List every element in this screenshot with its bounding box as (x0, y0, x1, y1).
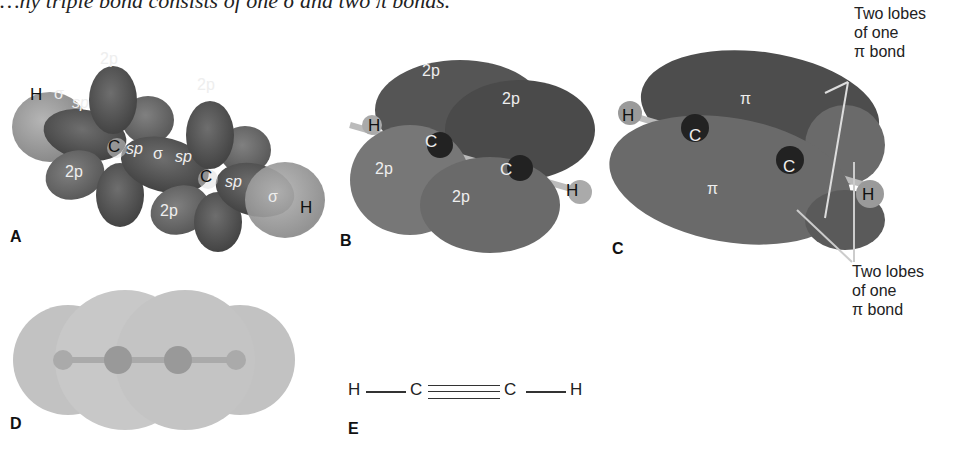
panel-c-pi-bonds: π π H C C H C Two lobes of one π bond Tw… (600, 0, 973, 464)
atom-h2: H (570, 380, 582, 400)
2p-label: 2p (100, 50, 118, 68)
panel-label-b: B (340, 232, 352, 250)
single-bond-left (366, 391, 406, 393)
2p-label: 2p (375, 160, 393, 178)
caption-fragment: …ny triple bond consists of one σ and tw… (0, 0, 450, 14)
callout-line: π bond (854, 42, 926, 61)
atom-h-left: H (622, 106, 634, 126)
sp-label: sp (175, 148, 192, 166)
sp-label: sp (225, 173, 242, 191)
callout-line: π bond (852, 300, 924, 319)
panel-b-p-orbitals: 2p 2p H C C H 2p 2p B (330, 40, 610, 260)
panel-a-sp-orbitals: H σ sp 2p C sp σ sp 2p 2p C sp 2p σ H A (0, 30, 330, 260)
2p-label: 2p (422, 62, 440, 80)
p-orbital-overlap-diagram (330, 40, 610, 260)
pi-label-bottom: π (707, 180, 718, 198)
sp-label: sp (126, 140, 143, 158)
sp-orbital-diagram (0, 30, 330, 260)
2p-label: 2p (160, 202, 178, 220)
atom-c-right: C (200, 167, 212, 187)
2p-label: 2p (452, 188, 470, 206)
panel-e-structural-formula: H C C H E (330, 370, 610, 464)
sp-label: sp (72, 94, 89, 112)
callout-top-pi-lobes: Two lobes of one π bond (854, 4, 926, 61)
panel-label-c: C (612, 240, 624, 258)
pi-label-top: π (740, 90, 751, 108)
atom-h-left: H (30, 85, 42, 105)
single-bond-right (526, 391, 566, 393)
sigma-label-left: σ (54, 85, 64, 103)
atom-c-right: C (783, 157, 795, 177)
atom-c1: C (410, 380, 422, 400)
atom-h-right: H (566, 181, 578, 201)
callout-line: Two lobes (854, 4, 926, 23)
panel-d-space-filling-model: D (0, 270, 320, 464)
callout-line: of one (854, 23, 926, 42)
atom-h1: H (348, 380, 360, 400)
panel-label-d: D (10, 415, 22, 433)
sigma-label-center: σ (153, 145, 163, 163)
atom-h-right: H (862, 185, 874, 205)
panel-label-e: E (348, 420, 359, 438)
atom-h-right: H (300, 198, 312, 218)
2p-label: 2p (65, 163, 83, 181)
callout-bottom-pi-lobes: Two lobes of one π bond (852, 262, 924, 319)
atom-c-left: C (425, 132, 437, 152)
2p-label: 2p (502, 90, 520, 108)
space-filling-model (0, 270, 320, 464)
2p-label: 2p (197, 76, 215, 94)
atom-c-left: C (108, 137, 120, 157)
atom-c-right: C (500, 160, 512, 180)
atom-c-left: C (689, 126, 701, 146)
callout-line: Two lobes (852, 262, 924, 281)
atom-h-left: H (368, 116, 380, 136)
callout-line: of one (852, 281, 924, 300)
triple-bond (428, 385, 500, 399)
sigma-label-right: σ (268, 188, 278, 206)
panel-label-a: A (10, 228, 22, 246)
atom-c2: C (504, 380, 516, 400)
